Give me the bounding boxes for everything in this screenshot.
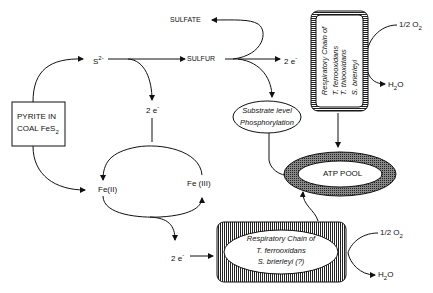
electrons-bottom-label: 2 e- (171, 252, 184, 263)
diagram-canvas (0, 0, 433, 293)
substrate-label: Substrate level Phosphorylation (240, 107, 294, 126)
sulfate-label: SULFATE (170, 16, 201, 23)
respiratory-chain-bottom-label: Respiratory Chain of T. ferrooxidans S. … (228, 235, 334, 266)
water-bottom-label: H2O (378, 271, 393, 281)
fe2-label: Fe(II) (98, 186, 117, 194)
electrons-right-label: 2 e- (284, 55, 297, 66)
oxygen-bottom-label: 1/2 O2 (380, 229, 403, 239)
sulfide-label: S2- (93, 55, 104, 66)
fe3-label: Fe (III) (187, 180, 211, 188)
pyrite-label: PYRITE IN COAL FeS2 (17, 113, 59, 135)
atp-pool-label: ATP POOL (323, 170, 362, 178)
respiratory-chain-top-label: Respiratory Chain of T. ferrooxidans T. … (321, 27, 358, 95)
electrons-mid-label: 2 e- (146, 104, 159, 115)
oxygen-top-label: 1/2 O2 (399, 21, 422, 31)
sulfur-label: SULFUR (187, 55, 215, 62)
water-top-label: H2O (388, 81, 403, 91)
